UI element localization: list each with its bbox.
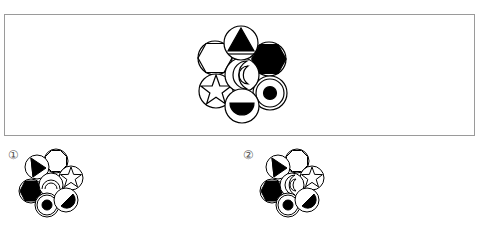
half-disc-icon xyxy=(295,188,319,212)
option-2-figure[interactable] xyxy=(0,0,477,225)
